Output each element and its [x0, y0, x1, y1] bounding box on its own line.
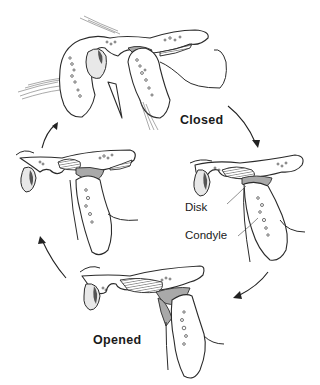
stage-opened-figure: [80, 266, 224, 378]
annotation-disk: Disk: [185, 202, 207, 214]
ear-canal-icon: [84, 284, 100, 310]
stage-intermediate-left-figure: [16, 150, 138, 255]
arrow-closed-to-right-icon: [228, 106, 260, 148]
arrow-right-to-opened-icon: [233, 272, 268, 299]
ear-canal-icon: [21, 167, 36, 192]
arrow-left-to-closed-icon: [42, 122, 58, 148]
diagram-artwork: [0, 0, 320, 385]
arrow-opened-to-left-icon: [38, 236, 66, 278]
ear-canal-icon: [194, 170, 210, 196]
annotation-condyle: Condyle: [185, 230, 227, 242]
ear-canal-icon: [86, 49, 106, 79]
tmj-cycle-diagram: Closed Disk Condyle Opened: [0, 0, 320, 385]
stage-label-opened: Opened: [93, 334, 141, 347]
stage-label-closed: Closed: [180, 114, 223, 127]
